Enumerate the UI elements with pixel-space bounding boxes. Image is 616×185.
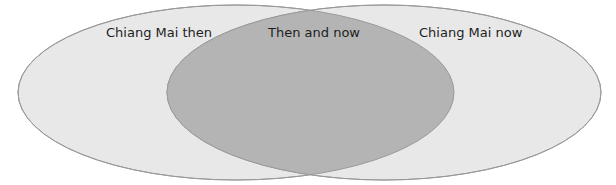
set-left-label: Chiang Mai then	[106, 25, 212, 40]
venn-diagram: Chiang Mai then Then and now Chiang Mai …	[0, 0, 616, 185]
intersection-label: Then and now	[267, 25, 360, 40]
set-right-label: Chiang Mai now	[419, 25, 523, 40]
